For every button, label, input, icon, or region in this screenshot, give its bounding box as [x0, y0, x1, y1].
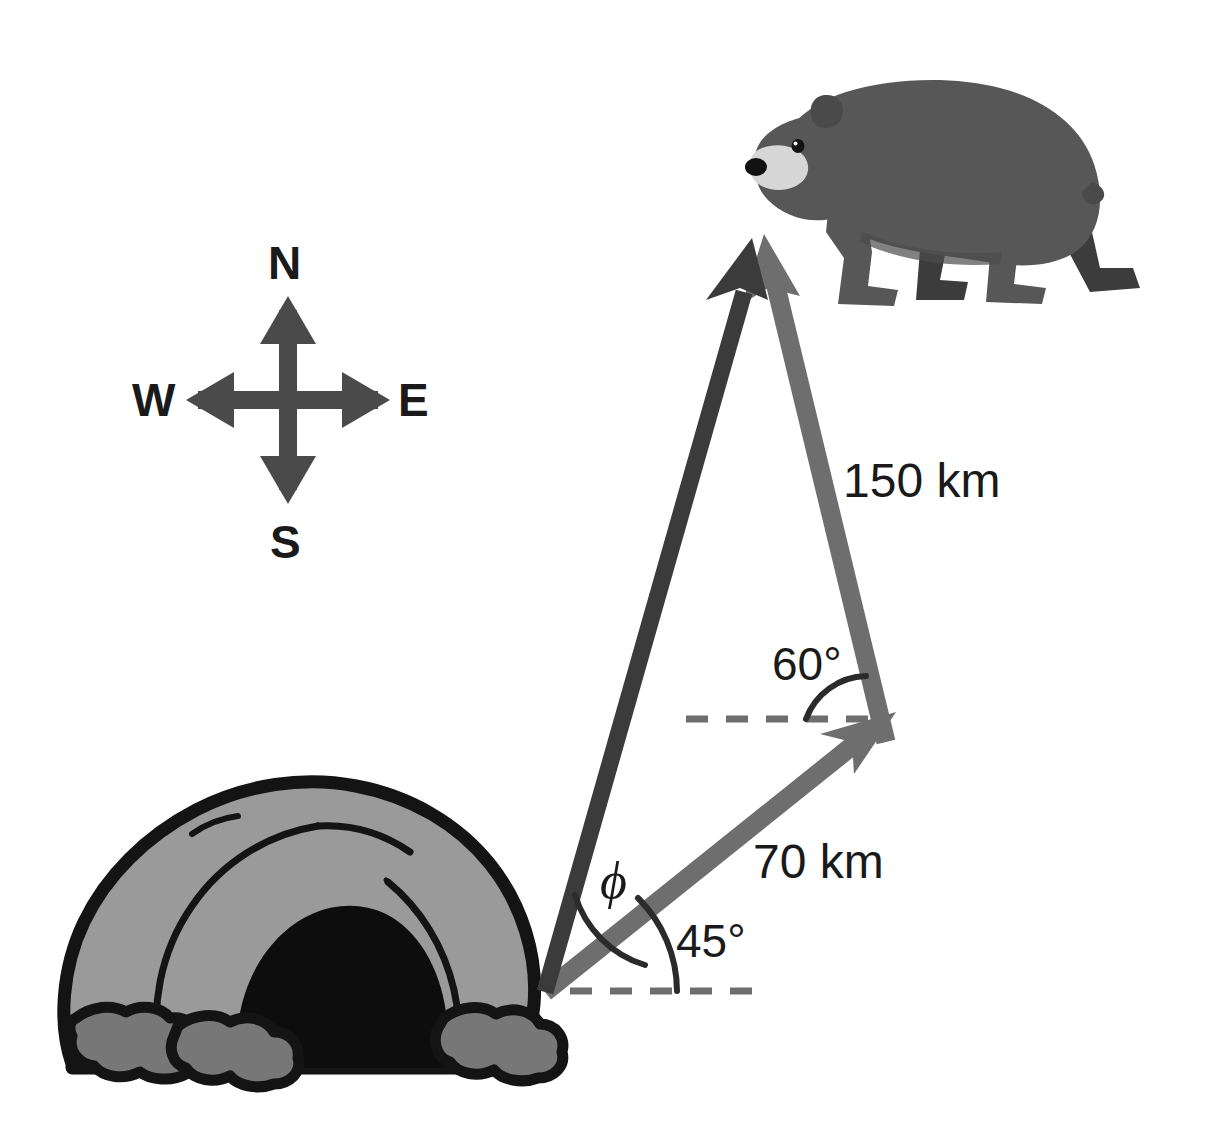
bear — [745, 80, 1140, 306]
magnitude-label-150km: 150 km — [843, 457, 1000, 505]
compass-rose — [186, 296, 390, 504]
igloo — [64, 782, 563, 1087]
compass-north-arrowhead — [260, 296, 316, 344]
vector-diagram-svg — [0, 0, 1206, 1134]
angle-label-phi: ϕ — [600, 855, 627, 907]
compass-label-south: S — [270, 519, 301, 565]
angle-label-60: 60° — [772, 641, 842, 687]
vector-resultant — [545, 238, 768, 992]
compass-south-arrowhead — [260, 456, 316, 504]
compass-west-arrowhead — [186, 372, 234, 428]
compass-label-east: E — [398, 377, 429, 423]
compass-label-north: N — [268, 240, 301, 286]
compass-east-arrowhead — [342, 372, 390, 428]
compass-label-west: W — [132, 377, 175, 423]
angle-label-45: 45° — [676, 918, 746, 964]
vector-resultant-shaft — [545, 292, 744, 992]
figure-canvas: N S E W 150 km 70 km 60° 45° ϕ — [0, 0, 1206, 1134]
magnitude-label-70km: 70 km — [753, 838, 884, 886]
